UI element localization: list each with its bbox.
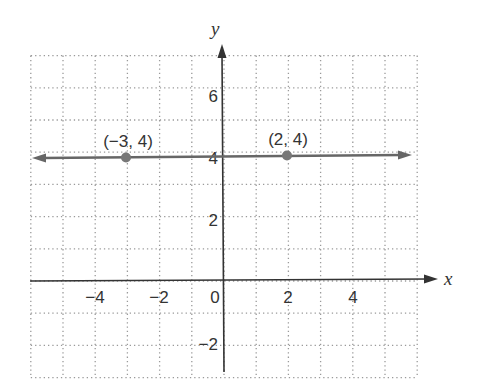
- point-label-neg3-4: (−3, 4): [103, 132, 153, 151]
- coordinate-plane: x y −4 −2 0 2 4 −2 2 4 6 (−3, 4) (2, 4): [0, 0, 478, 392]
- y-axis-label: y: [209, 18, 220, 39]
- point-label-2-4: (2, 4): [268, 130, 308, 149]
- point-2-4: [282, 151, 292, 161]
- y-tick-label: 6: [209, 87, 218, 106]
- x-tick-label: 2: [283, 288, 292, 307]
- axes: x y: [30, 18, 453, 372]
- x-tick-label: 0: [210, 288, 219, 307]
- x-axis-label: x: [443, 268, 453, 289]
- y-tick-label: 4: [209, 149, 218, 168]
- y-tick-label: −2: [199, 335, 218, 354]
- x-tick-label: 4: [348, 288, 357, 307]
- x-tick-label: −2: [149, 288, 168, 307]
- horizontal-line: [42, 155, 402, 158]
- y-tick-label: 2: [209, 211, 218, 230]
- y-axis-arrow-icon: [218, 44, 227, 58]
- x-axis: [30, 279, 430, 281]
- point-neg3-4: [121, 153, 131, 163]
- x-tick-label: −4: [85, 288, 104, 307]
- line-left-arrow-icon: [32, 154, 46, 163]
- x-axis-arrow-icon: [424, 275, 438, 284]
- y-axis: [222, 52, 224, 372]
- tick-labels: −4 −2 0 2 4 −2 2 4 6: [85, 87, 357, 354]
